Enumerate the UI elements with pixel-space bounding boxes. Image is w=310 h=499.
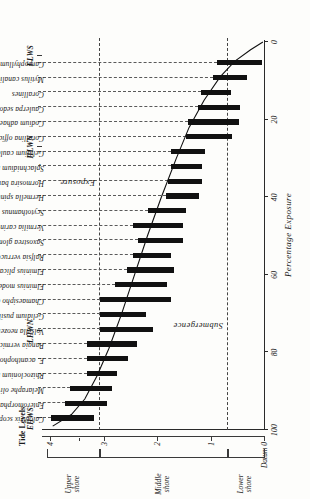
- annotation-submergence: Submergence: [173, 321, 223, 331]
- annotation-exposure: Exposure: [60, 178, 95, 188]
